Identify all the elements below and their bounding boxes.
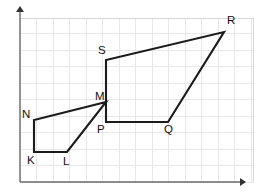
- vertex-label-q: Q: [164, 123, 173, 135]
- vertex-label-r: R: [227, 14, 235, 26]
- geometry-figure: KLMNPQRS: [0, 0, 254, 194]
- vertex-label-p: P: [97, 123, 105, 135]
- vertex-label-l: L: [63, 155, 70, 167]
- x-axis-arrowhead: [240, 178, 246, 186]
- quadrilateral-pqrs: [106, 32, 224, 122]
- vertex-label-k: K: [27, 154, 35, 166]
- figure-canvas: KLMNPQRS: [0, 0, 254, 194]
- grid-layer: [20, 18, 254, 182]
- vertex-label-m: M: [95, 90, 105, 102]
- vertex-label-s: S: [98, 44, 106, 56]
- vertex-label-n: N: [22, 108, 30, 120]
- y-axis-arrowhead: [16, 6, 24, 12]
